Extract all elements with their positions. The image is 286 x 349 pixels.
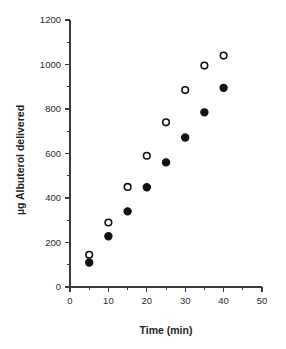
y-tick-label: 200 — [45, 237, 61, 248]
scatter-plot-figure: µg Albuterol delivered Time (min) 020040… — [0, 0, 286, 349]
data-point — [105, 233, 112, 240]
data-point — [105, 219, 112, 226]
y-tick-label: 0 — [56, 281, 61, 292]
x-tick-label: 50 — [257, 295, 268, 306]
data-point — [86, 251, 93, 258]
data-point — [162, 159, 169, 166]
data-point — [124, 184, 131, 191]
data-point — [220, 84, 227, 91]
y-tick-label: 600 — [45, 148, 61, 159]
x-tick-label: 0 — [67, 295, 72, 306]
chart-canvas: µg Albuterol delivered Time (min) 020040… — [0, 0, 286, 349]
data-point — [201, 62, 208, 69]
x-tick-label: 30 — [180, 295, 191, 306]
x-axis-ticks: 01020304050 — [67, 287, 267, 306]
data-point — [86, 259, 93, 266]
data-point — [201, 109, 208, 116]
series-filled-circles — [86, 84, 228, 266]
x-tick-label: 20 — [142, 295, 153, 306]
y-tick-label: 400 — [45, 192, 61, 203]
data-point — [143, 184, 150, 191]
data-point — [182, 134, 189, 141]
series-open-circles — [86, 52, 227, 258]
y-axis-title: µg Albuterol delivered — [14, 105, 26, 215]
data-point — [182, 87, 189, 94]
data-point — [144, 152, 151, 159]
y-tick-label: 1200 — [40, 14, 61, 25]
y-tick-label: 1000 — [40, 59, 61, 70]
x-tick-label: 40 — [218, 295, 229, 306]
y-axis-ticks: 020040060080010001200 — [40, 14, 70, 292]
y-tick-label: 800 — [45, 103, 61, 114]
data-point — [163, 119, 170, 126]
data-point — [124, 208, 131, 215]
y-axis-title-label: µg Albuterol delivered — [14, 105, 26, 215]
x-axis-title-label: Time (min) — [140, 324, 193, 336]
x-axis-title: Time (min) — [140, 324, 193, 336]
x-tick-label: 10 — [103, 295, 114, 306]
data-point — [220, 52, 227, 59]
